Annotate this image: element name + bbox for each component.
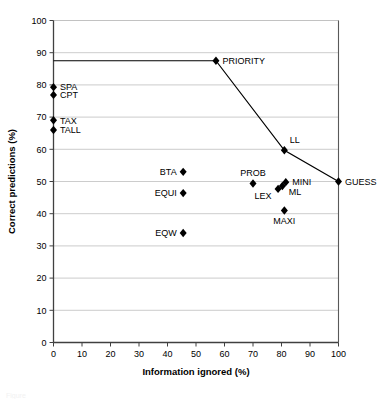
y-tick-group: 0102030405060708090100 — [31, 16, 53, 348]
x-tick-label-60: 60 — [219, 349, 229, 359]
point-label-guess: GUESS — [345, 177, 377, 187]
data-point-equi — [180, 189, 187, 197]
y-axis-title: Correct predictions (%) — [6, 129, 17, 234]
data-line-group — [54, 61, 339, 182]
data-label-group: PRIORITYSPACPTTAXTALLLLBTAGUESSMINIMLPRO… — [60, 56, 377, 238]
x-tick-label-0: 0 — [51, 349, 56, 359]
point-label-cpt: CPT — [60, 90, 79, 100]
point-label-tax: TAX — [60, 116, 77, 126]
figure-container: 0102030405060708090100 01020304050607080… — [0, 0, 385, 399]
x-axis-title: Information ignored (%) — [142, 366, 249, 377]
x-tick-label-100: 100 — [331, 349, 346, 359]
point-label-eqw: EQW — [155, 228, 177, 238]
data-point-cpt — [50, 91, 57, 99]
point-label-maxi: MAXI — [273, 216, 295, 226]
figure-caption: Figure — [6, 392, 26, 399]
y-tick-label-80: 80 — [36, 80, 46, 90]
y-tick-label-20: 20 — [36, 273, 46, 283]
y-tick-label-60: 60 — [36, 145, 46, 155]
y-tick-label-50: 50 — [36, 177, 46, 187]
data-point-group — [50, 57, 342, 238]
point-label-tall: TALL — [60, 125, 81, 135]
point-label-priority: PRIORITY — [222, 56, 265, 66]
point-label-mini: MINI — [292, 177, 311, 187]
x-tick-label-20: 20 — [105, 349, 115, 359]
x-tick-label-40: 40 — [162, 349, 172, 359]
gridlines-group — [54, 21, 339, 311]
data-line-frontier — [54, 61, 339, 182]
point-label-ml: ML — [289, 187, 302, 197]
y-tick-label-70: 70 — [36, 112, 46, 122]
x-tick-label-80: 80 — [276, 349, 286, 359]
x-tick-label-90: 90 — [305, 349, 315, 359]
y-tick-label-90: 90 — [36, 48, 46, 58]
y-tick-label-30: 30 — [36, 241, 46, 251]
point-label-bta: BTA — [160, 167, 177, 177]
data-point-eqw — [180, 229, 187, 237]
point-label-equi: EQUI — [155, 188, 177, 198]
x-tick-label-50: 50 — [191, 349, 201, 359]
data-point-bta — [180, 168, 187, 176]
x-tick-label-70: 70 — [248, 349, 258, 359]
data-point-prob — [250, 179, 257, 187]
y-tick-label-40: 40 — [36, 209, 46, 219]
data-point-guess — [335, 177, 342, 185]
x-tick-group: 0102030405060708090100 — [51, 343, 346, 359]
point-label-lex: LEX — [255, 191, 272, 201]
point-label-prob: PROB — [240, 168, 266, 178]
y-tick-label-0: 0 — [41, 338, 46, 348]
y-tick-label-100: 100 — [31, 16, 46, 26]
data-point-tall — [50, 126, 57, 134]
data-point-spa — [50, 83, 57, 91]
y-tick-label-10: 10 — [36, 306, 46, 316]
x-tick-label-30: 30 — [134, 349, 144, 359]
scatter-plot: 0102030405060708090100 01020304050607080… — [0, 0, 385, 399]
point-label-ll: LL — [290, 135, 300, 145]
x-tick-label-10: 10 — [77, 349, 87, 359]
